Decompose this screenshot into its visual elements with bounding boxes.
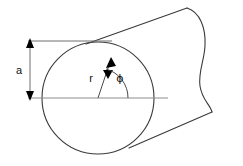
cylinder-diagram-figure: a r ϕ bbox=[0, 0, 243, 166]
label-radius-r: r bbox=[89, 72, 93, 84]
diagram-canvas: a r ϕ bbox=[0, 0, 243, 166]
label-outer-radius-a: a bbox=[16, 64, 23, 76]
label-angle-phi: ϕ bbox=[116, 72, 123, 85]
